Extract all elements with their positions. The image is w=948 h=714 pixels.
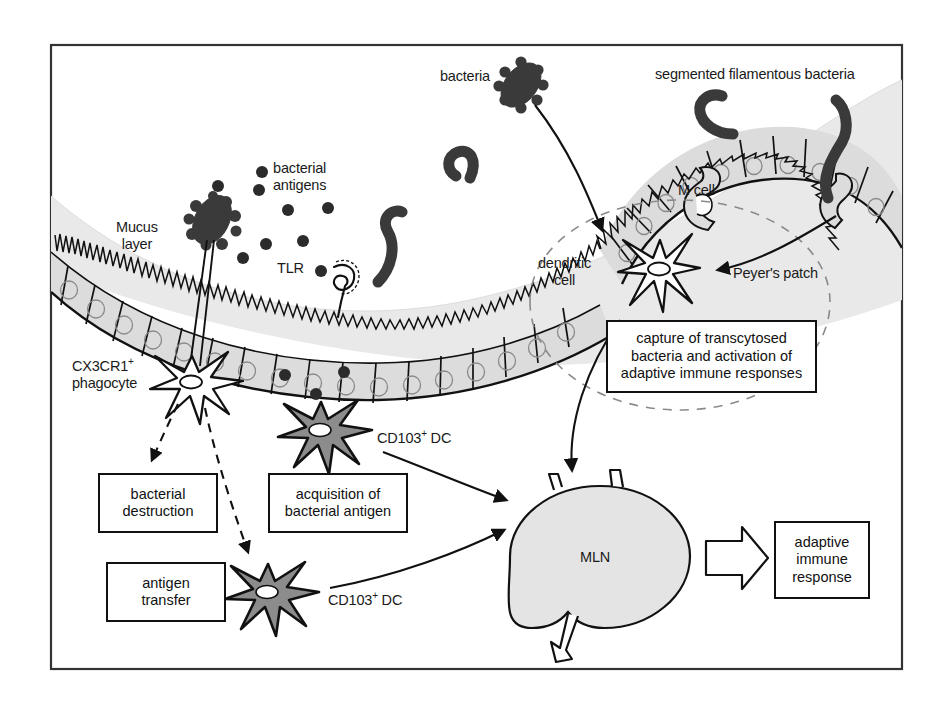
- label-cd103-dc-lower: CD103+ DC: [328, 592, 402, 609]
- cd103-upper-tail: DC: [427, 430, 451, 446]
- label-cx3cr1-phagocyte: CX3CR1+phagocyte: [72, 358, 137, 392]
- mln-notch-right: [610, 470, 623, 487]
- label-segmented-filamentous-bacteria: segmented filamentous bacteria: [655, 66, 855, 83]
- label-mln: MLN: [580, 549, 610, 566]
- label-dendritic-cell: dendritic cell: [538, 255, 591, 289]
- cd103-lower-tail: DC: [378, 592, 402, 608]
- label-mucus-layer: Mucus layer: [116, 219, 158, 253]
- cd103-lower-main: CD103: [328, 592, 372, 608]
- label-cd103-dc-upper: CD103+ DC: [377, 430, 451, 447]
- box-capture-transcytosed-bacteria: capture of transcytosed bacteria and act…: [606, 320, 817, 393]
- figure-root: bacteria segmented filamentous bacteria …: [0, 0, 948, 714]
- cd103-upper-main: CD103: [377, 430, 421, 446]
- label-bacteria: bacteria: [440, 68, 490, 85]
- cx3cr1-superscript-plus: +: [128, 356, 134, 367]
- box-adaptive-immune-response: adaptive immune response: [774, 521, 870, 599]
- label-bacterial-antigens: bacterial antigens: [273, 160, 326, 194]
- box-bacterial-destruction: bacterial destruction: [98, 473, 218, 533]
- label-m-cell: M cell: [678, 182, 715, 199]
- cx3cr1-line2: phagocyte: [72, 375, 137, 391]
- box-antigen-transfer: antigen transfer: [106, 562, 226, 622]
- cx3cr1-main: CX3CR1: [72, 358, 128, 374]
- box-acquisition-of-bacterial-antigen: acquisition of bacterial antigen: [268, 473, 408, 533]
- label-tlr: TLR: [277, 260, 304, 277]
- label-peyers-patch: Peyer's patch: [733, 265, 818, 282]
